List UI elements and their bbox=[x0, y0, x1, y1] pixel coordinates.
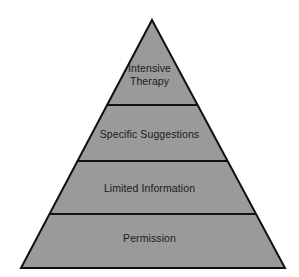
pyramid-graphic bbox=[0, 0, 299, 277]
pyramid-diagram: Intensive Therapy Specific Suggestions L… bbox=[0, 0, 299, 277]
pyramid-body-shape bbox=[21, 20, 285, 268]
